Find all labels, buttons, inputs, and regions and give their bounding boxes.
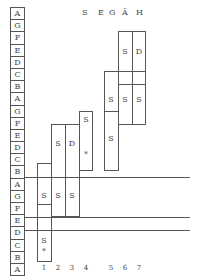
column-number: 1	[37, 264, 51, 272]
pitch-label: E	[10, 215, 25, 227]
pitch-label-column: A G F E D C B A G F E D C B A G F E D C …	[10, 7, 24, 276]
pitch-label: B	[10, 166, 25, 178]
pitch-label: E	[10, 45, 25, 57]
pitch-label: A	[10, 7, 25, 20]
column-6-cell: S	[118, 95, 132, 104]
column-number: 4	[79, 264, 93, 272]
header-letter-s: S	[82, 8, 87, 17]
column-7-cell: S	[132, 95, 146, 104]
column-6-7-divider	[118, 84, 146, 85]
column-2-cell: S	[51, 191, 65, 200]
column-6-7-divider	[118, 71, 146, 72]
header-letter-a-macron: Ā	[122, 8, 128, 17]
column-number: 2	[51, 264, 65, 272]
pitch-label: A	[10, 93, 25, 105]
pitch-label: F	[10, 118, 25, 130]
pitch-label: A	[10, 179, 25, 191]
column-5-cell: S	[104, 95, 118, 104]
pitch-label: A	[10, 264, 25, 276]
column-1-cell: *	[37, 247, 51, 256]
column-1-divider	[37, 204, 52, 205]
column-number: 6	[118, 264, 132, 272]
column-1-cell: S	[37, 236, 51, 245]
pitch-label: C	[10, 69, 25, 81]
header-letter-h: H	[136, 8, 143, 17]
pitch-label: C	[10, 154, 25, 166]
pitch-label: B	[10, 81, 25, 93]
column-6-cell: S	[118, 47, 132, 56]
pitch-label: C	[10, 240, 25, 252]
column-number: 7	[132, 264, 146, 272]
pitch-label: F	[10, 203, 25, 215]
pitch-label: G	[10, 20, 25, 32]
pitch-label: G	[10, 191, 25, 203]
column-6-box	[118, 31, 133, 125]
header-letter-e: E	[98, 8, 104, 17]
column-4-cell: S	[79, 115, 93, 124]
pitch-label: B	[10, 252, 25, 264]
column-1-cell: S	[37, 191, 51, 200]
column-4-cell: *	[79, 150, 93, 159]
pitch-label: D	[10, 142, 25, 154]
header-letter-g: G	[109, 8, 115, 17]
pitch-label: E	[10, 130, 25, 142]
pitch-label: D	[10, 57, 25, 69]
column-number: 5	[104, 264, 118, 272]
column-5-box	[104, 71, 119, 171]
column-number: 3	[65, 264, 79, 272]
column-2-box	[51, 124, 66, 217]
pitch-label: D	[10, 227, 25, 239]
column-3-box	[65, 124, 80, 217]
pitch-label: G	[10, 106, 25, 118]
column-5-divider	[104, 111, 119, 112]
column-2-cell: S	[51, 139, 65, 148]
column-3-cell: D	[65, 139, 79, 148]
column-3-cell: S	[65, 191, 79, 200]
pitch-label: F	[10, 32, 25, 44]
column-5-cell: S	[104, 134, 118, 143]
column-7-box	[132, 31, 146, 125]
column-7-cell: D	[132, 47, 146, 56]
